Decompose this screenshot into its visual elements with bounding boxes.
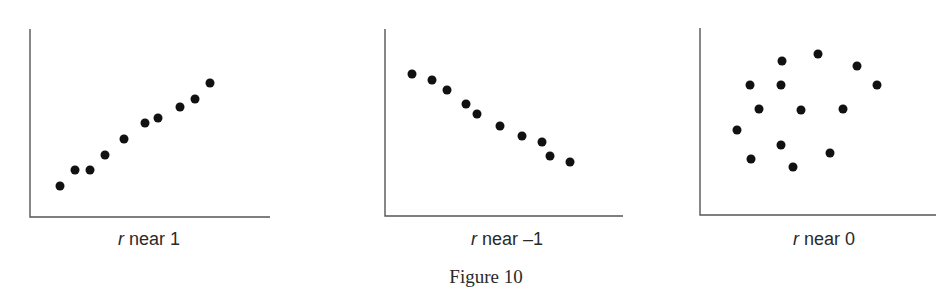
figure: r near 1 r near –1 r near 0 Figure 10 bbox=[0, 0, 952, 306]
data-point bbox=[839, 105, 848, 114]
data-point bbox=[538, 138, 547, 147]
data-point bbox=[755, 105, 764, 114]
data-point bbox=[56, 182, 65, 191]
data-point bbox=[86, 166, 95, 175]
scatter-plots bbox=[0, 0, 952, 306]
data-point bbox=[814, 50, 823, 59]
figure-caption: Figure 10 bbox=[449, 266, 522, 288]
data-point bbox=[853, 62, 862, 71]
panel-label-negative: r near –1 bbox=[471, 229, 543, 250]
data-point bbox=[443, 86, 452, 95]
data-point bbox=[789, 163, 798, 172]
data-point bbox=[206, 79, 215, 88]
data-point bbox=[428, 76, 437, 85]
data-point bbox=[176, 103, 185, 112]
data-point bbox=[191, 95, 200, 104]
data-point bbox=[566, 158, 575, 167]
data-point bbox=[778, 57, 787, 66]
axes bbox=[30, 29, 270, 217]
data-point bbox=[546, 152, 555, 161]
data-point bbox=[71, 166, 80, 175]
scatter-panel-negative bbox=[385, 29, 623, 216]
data-point bbox=[777, 141, 786, 150]
axes bbox=[385, 29, 623, 216]
data-point bbox=[408, 70, 417, 79]
data-point bbox=[747, 155, 756, 164]
data-point bbox=[826, 149, 835, 158]
panel-label-zero: r near 0 bbox=[793, 229, 855, 250]
data-point bbox=[154, 114, 163, 123]
data-point bbox=[141, 119, 150, 128]
scatter-panel-positive bbox=[30, 29, 270, 217]
data-point bbox=[746, 81, 755, 90]
label-text: near 1 bbox=[124, 229, 180, 249]
data-point bbox=[518, 132, 527, 141]
panel-label-positive: r near 1 bbox=[118, 229, 180, 250]
data-point bbox=[496, 122, 505, 131]
data-point bbox=[733, 126, 742, 135]
scatter-panel-zero bbox=[700, 28, 936, 215]
data-point bbox=[462, 100, 471, 109]
data-point bbox=[120, 135, 129, 144]
label-text: near –1 bbox=[477, 229, 543, 249]
data-point bbox=[777, 81, 786, 90]
data-point bbox=[873, 81, 882, 90]
data-point bbox=[101, 151, 110, 160]
data-point bbox=[797, 106, 806, 115]
label-text: near 0 bbox=[799, 229, 855, 249]
data-point bbox=[473, 110, 482, 119]
